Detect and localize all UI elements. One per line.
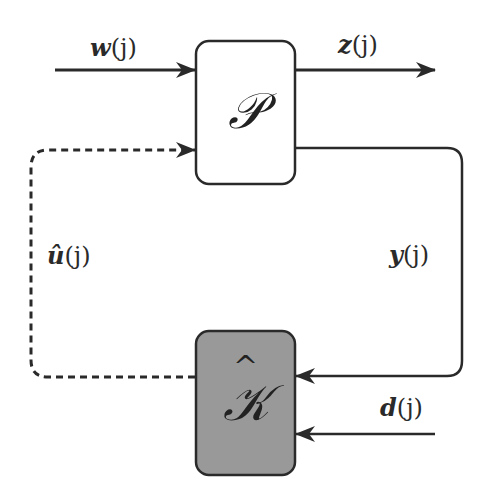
feedback-block-diagram: 𝒫 𝒦 ^ w(j) z(j) y(j) û(j) d(j) bbox=[0, 0, 487, 499]
w-var: w bbox=[90, 33, 111, 62]
plant-symbol: 𝒫 bbox=[228, 82, 264, 140]
z-arg: (j) bbox=[352, 31, 378, 59]
z-signal-label: z(j) bbox=[338, 33, 378, 57]
y-var: y bbox=[389, 240, 403, 269]
hat-accent: ^ bbox=[233, 349, 258, 384]
u-hat-arg: (j) bbox=[64, 242, 90, 270]
w-signal-label: w(j) bbox=[90, 36, 137, 60]
y-signal-path bbox=[295, 148, 462, 376]
w-arg: (j) bbox=[111, 34, 137, 62]
d-var: d bbox=[380, 393, 397, 422]
controller-hat: ^ bbox=[196, 352, 295, 382]
controller-block-label: 𝒦 bbox=[196, 378, 295, 428]
y-signal-label: y(j) bbox=[389, 243, 429, 267]
d-arg: (j) bbox=[397, 394, 423, 422]
z-var: z bbox=[338, 30, 352, 59]
u-hat-var: û bbox=[47, 241, 64, 270]
y-arg: (j) bbox=[403, 241, 429, 269]
plant-block-label: 𝒫 bbox=[196, 86, 295, 136]
d-signal-label: d(j) bbox=[380, 396, 423, 420]
u-hat-signal-label: û(j) bbox=[47, 244, 91, 268]
